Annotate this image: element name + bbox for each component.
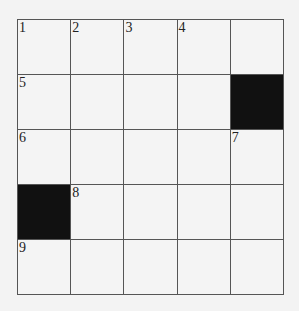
crossword-cell[interactable]: 2 — [71, 20, 124, 75]
crossword-cell[interactable]: 1 — [18, 20, 71, 75]
crossword-cell[interactable] — [178, 75, 231, 130]
clue-number: 2 — [72, 21, 79, 35]
crossword-cell[interactable] — [178, 130, 231, 185]
clue-number: 3 — [125, 21, 132, 35]
crossword-cell[interactable] — [124, 130, 177, 185]
clue-number: 5 — [19, 76, 26, 90]
crossword-grid: 123456789 — [17, 19, 284, 295]
crossword-cell[interactable] — [231, 20, 284, 75]
crossword-cell[interactable]: 5 — [18, 75, 71, 130]
clue-number: 6 — [19, 131, 26, 145]
crossword-cell[interactable] — [124, 185, 177, 240]
clue-number: 4 — [179, 21, 186, 35]
crossword-cell[interactable] — [124, 240, 177, 295]
crossword-cell[interactable] — [71, 130, 124, 185]
crossword-cell[interactable] — [231, 240, 284, 295]
crossword-cell[interactable] — [231, 185, 284, 240]
crossword-cell[interactable]: 3 — [124, 20, 177, 75]
clue-number: 1 — [19, 21, 26, 35]
crossword-cell[interactable] — [124, 75, 177, 130]
crossword-cell[interactable]: 4 — [178, 20, 231, 75]
clue-number: 7 — [232, 131, 239, 145]
crossword-cell[interactable]: 8 — [71, 185, 124, 240]
crossword-cell[interactable] — [178, 185, 231, 240]
crossword-cell[interactable] — [178, 240, 231, 295]
crossword-cell[interactable]: 9 — [18, 240, 71, 295]
crossword-cell[interactable] — [71, 240, 124, 295]
black-square — [18, 185, 71, 240]
crossword-cell[interactable]: 7 — [231, 130, 284, 185]
clue-number: 8 — [72, 186, 79, 200]
crossword-cell[interactable] — [71, 75, 124, 130]
crossword-cell[interactable]: 6 — [18, 130, 71, 185]
clue-number: 9 — [19, 241, 26, 255]
black-square — [231, 75, 284, 130]
